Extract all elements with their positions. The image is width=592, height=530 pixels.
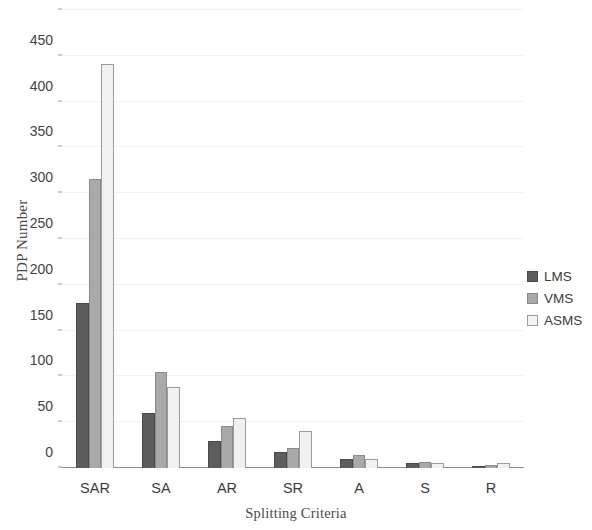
bar — [274, 452, 287, 468]
y-axis-tick-label: 350 — [30, 123, 53, 139]
bar-group-bars — [274, 10, 312, 468]
y-tick-mark — [58, 283, 62, 284]
bar-group: SR — [274, 10, 312, 468]
bar-group: A — [340, 10, 378, 468]
y-axis-tick-label: 450 — [30, 32, 53, 48]
y-axis-tick-label: 100 — [30, 352, 53, 368]
bar — [233, 418, 246, 468]
bar — [299, 431, 312, 468]
y-axis-tick-label: 400 — [30, 78, 53, 94]
plot-area: 050100150200250300350400450500SARSAARSRA… — [62, 10, 524, 468]
bar — [142, 413, 155, 468]
legend-item: VMS — [527, 288, 582, 308]
bar-group-bars — [208, 10, 246, 468]
bar — [472, 466, 485, 468]
bar — [406, 463, 419, 468]
bar-group-bars — [406, 10, 444, 468]
bar-group: SA — [142, 10, 180, 468]
x-axis-tick-label: SR — [274, 480, 312, 496]
bar-group-bars — [340, 10, 378, 468]
y-axis-tick-label: 200 — [30, 261, 53, 277]
legend-color-swatch — [527, 293, 538, 304]
bar — [497, 463, 510, 468]
y-tick-mark — [58, 329, 62, 330]
legend-label: VMS — [544, 291, 573, 306]
bar — [365, 459, 378, 468]
y-tick-mark — [58, 100, 62, 101]
bar — [287, 448, 300, 468]
bar — [208, 441, 221, 468]
bar-group: S — [406, 10, 444, 468]
bar — [155, 372, 168, 468]
bar — [340, 459, 353, 468]
x-axis-tick-label: SAR — [76, 480, 114, 496]
y-axis-tick-label: 300 — [30, 169, 53, 185]
bar-group: AR — [208, 10, 246, 468]
y-axis-title: PDP Number — [14, 171, 31, 311]
bar-group-bars — [76, 10, 114, 468]
y-axis-tick-label: 150 — [30, 307, 53, 323]
bar — [419, 462, 432, 468]
bar-group: R — [472, 10, 510, 468]
legend-label: LMS — [544, 269, 572, 284]
y-tick-mark — [58, 192, 62, 193]
bar-group-bars — [472, 10, 510, 468]
bar-group: SAR — [76, 10, 114, 468]
y-axis-tick-label: 0 — [45, 444, 53, 460]
bar — [76, 303, 89, 468]
bar-chart-figure: PDP Number 05010015020025030035040045050… — [0, 0, 592, 530]
legend-label: ASMS — [544, 313, 582, 328]
x-axis-tick-label: S — [406, 480, 444, 496]
y-tick-mark — [58, 238, 62, 239]
y-tick-mark — [58, 146, 62, 147]
x-axis-title: Splitting Criteria — [0, 505, 592, 522]
bar — [167, 387, 180, 468]
y-axis-tick-label: 500 — [30, 0, 53, 2]
legend-item: ASMS — [527, 310, 582, 330]
bar — [101, 64, 114, 468]
y-axis-tick-label: 50 — [37, 398, 53, 414]
bar — [485, 465, 498, 468]
bar — [89, 179, 102, 468]
x-axis-tick-label: SA — [142, 480, 180, 496]
y-tick-mark — [58, 375, 62, 376]
y-tick-mark — [58, 421, 62, 422]
y-tick-mark — [58, 467, 62, 468]
x-axis-tick-label: AR — [208, 480, 246, 496]
legend-item: LMS — [527, 266, 582, 286]
y-tick-mark — [58, 9, 62, 10]
legend-color-swatch — [527, 271, 538, 282]
chart-legend: LMSVMSASMS — [527, 266, 582, 332]
bar — [353, 455, 366, 468]
y-tick-mark — [58, 54, 62, 55]
y-axis-tick-label: 250 — [30, 215, 53, 231]
x-axis-tick-label: A — [340, 480, 378, 496]
bar — [431, 463, 444, 468]
x-axis-tick-label: R — [472, 480, 510, 496]
bar — [221, 426, 234, 468]
legend-color-swatch — [527, 315, 538, 326]
bar-group-bars — [142, 10, 180, 468]
